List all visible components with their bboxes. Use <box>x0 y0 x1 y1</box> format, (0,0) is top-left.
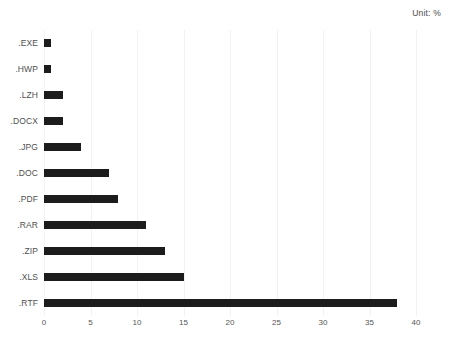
x-tick-label: 15 <box>179 318 188 328</box>
bar-chart: Unit: % .EXE.HWP.LZH.DOCX.JPG.DOC.PDF.RA… <box>0 0 455 345</box>
bar-row <box>44 264 416 290</box>
x-tick-label: 40 <box>412 318 421 328</box>
category-label: .RAR <box>0 220 38 230</box>
unit-annotation: Unit: % <box>412 8 441 18</box>
plot-region <box>44 30 416 316</box>
category-label: .ZIP <box>0 246 38 256</box>
category-label: .DOC <box>0 168 38 178</box>
x-tick-label: 35 <box>365 318 374 328</box>
x-tick-label: 5 <box>88 318 92 328</box>
category-label: .JPG <box>0 142 38 152</box>
bar-row <box>44 238 416 264</box>
x-tick-label: 0 <box>42 318 46 328</box>
bar-row <box>44 108 416 134</box>
x-tick-label: 30 <box>319 318 328 328</box>
bar <box>44 143 81 151</box>
bar <box>44 195 118 203</box>
category-label: .HWP <box>0 64 38 74</box>
bar-row <box>44 56 416 82</box>
bar <box>44 247 165 255</box>
bar-row <box>44 30 416 56</box>
x-tick-label: 20 <box>226 318 235 328</box>
bar <box>44 221 146 229</box>
x-axis-tick-labels: 0510152025303540 <box>44 318 416 332</box>
bar-row <box>44 186 416 212</box>
bar-row <box>44 160 416 186</box>
bar <box>44 117 63 125</box>
category-label: .EXE <box>0 38 38 48</box>
bar <box>44 39 51 47</box>
gridline <box>416 30 417 316</box>
bar <box>44 299 397 307</box>
bar <box>44 273 184 281</box>
bar <box>44 91 63 99</box>
bar-row <box>44 82 416 108</box>
bar-row <box>44 134 416 160</box>
bar <box>44 65 51 73</box>
category-label: .XLS <box>0 272 38 282</box>
category-label: .RTF <box>0 298 38 308</box>
x-tick-label: 10 <box>133 318 142 328</box>
bar-row <box>44 290 416 316</box>
category-label: .PDF <box>0 194 38 204</box>
bar <box>44 169 109 177</box>
category-label: .LZH <box>0 90 38 100</box>
category-label: .DOCX <box>0 116 38 126</box>
x-tick-label: 25 <box>272 318 281 328</box>
bar-row <box>44 212 416 238</box>
